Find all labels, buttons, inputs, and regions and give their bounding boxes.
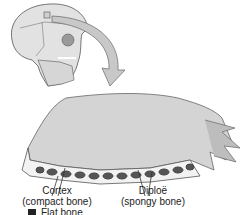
diploe-title: Diploë [118, 185, 188, 196]
illustration [0, 0, 243, 215]
diploe-subtitle: (spongy bone) [118, 196, 188, 207]
skull-icon [11, 4, 88, 86]
cortex-title: Cortex [22, 185, 92, 196]
caption-badge-icon [28, 209, 36, 215]
cortex-label: Cortex (compact bone) [22, 185, 92, 207]
figure-caption: Flat bone [28, 207, 83, 215]
flat-bone-diagram: Cortex (compact bone) Diploë (spongy bon… [0, 0, 243, 215]
cortex-subtitle: (compact bone) [22, 196, 92, 207]
caption-text: Flat bone [41, 207, 83, 215]
bone-section [22, 94, 240, 185]
diploe-label: Diploë (spongy bone) [118, 185, 188, 207]
